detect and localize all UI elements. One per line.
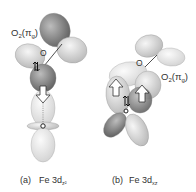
oxygen-atom-label-b: O: [136, 58, 143, 68]
oxygen-atom-label-a: O: [40, 48, 47, 58]
panel-a: O2(πg) O (a)Fe 3dz²: [11, 9, 89, 186]
caption-a: (a)Fe 3dz²: [20, 175, 67, 186]
fe-dz2-lower-lobe: [31, 128, 55, 162]
caption-b: (b)Fe 3dxz: [112, 175, 158, 186]
ligand-label-a: O2(πg): [11, 27, 38, 39]
panel-b: O O2(πg) (b)Fe 3dxz: [99, 32, 188, 186]
fe-atom: [41, 124, 45, 128]
orbital-diagram: O2(πg) O (a)Fe 3dz²: [0, 0, 196, 192]
ligand-label-b: O2(πg): [161, 71, 188, 83]
fe-atom-b: [124, 109, 128, 113]
